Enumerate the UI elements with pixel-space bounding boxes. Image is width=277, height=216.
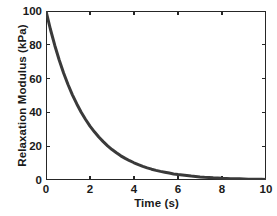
y-tick-100: 100 <box>2 5 42 17</box>
y-tick-80: 80 <box>2 39 42 51</box>
y-tick-label: 80 <box>6 39 42 51</box>
y-tick-40: 40 <box>2 106 42 118</box>
x-tick-label: 6 <box>158 182 198 196</box>
x-axis-label: Time (s) <box>46 197 267 209</box>
x-tick-10: 10 <box>246 182 277 196</box>
x-tick-8: 8 <box>202 182 242 196</box>
x-tick-2: 2 <box>70 182 110 196</box>
data-series-group <box>46 11 266 179</box>
data-line <box>46 11 266 179</box>
x-tick-label: 2 <box>70 182 110 196</box>
axis-ticks <box>46 11 266 180</box>
x-tick-4: 4 <box>114 182 154 196</box>
y-tick-20: 20 <box>2 140 42 152</box>
x-tick-label: 0 <box>26 182 66 196</box>
x-tick-6: 6 <box>158 182 198 196</box>
x-tick-label: 8 <box>202 182 242 196</box>
x-tick-0: 0 <box>26 182 66 196</box>
y-tick-60: 60 <box>2 73 42 85</box>
x-tick-label: 10 <box>246 182 277 196</box>
y-tick-label: 40 <box>6 106 42 118</box>
plot-area <box>46 11 266 180</box>
figure-canvas: Relaxation Modulus (kPa) 0 20 40 60 80 1… <box>0 0 277 216</box>
y-tick-label: 20 <box>6 140 42 152</box>
x-tick-label: 4 <box>114 182 154 196</box>
y-axis-label: Relaxation Modulus (kPa) <box>14 11 30 180</box>
y-tick-label: 100 <box>6 5 42 17</box>
y-tick-label: 60 <box>6 73 42 85</box>
